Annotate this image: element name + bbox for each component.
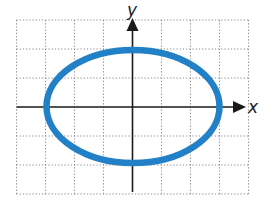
x-axis-label: x bbox=[247, 97, 259, 117]
y-axis-label: y bbox=[126, 0, 138, 20]
x-axis-arrow-icon bbox=[233, 101, 246, 113]
ellipse-chart: x y bbox=[0, 0, 263, 197]
